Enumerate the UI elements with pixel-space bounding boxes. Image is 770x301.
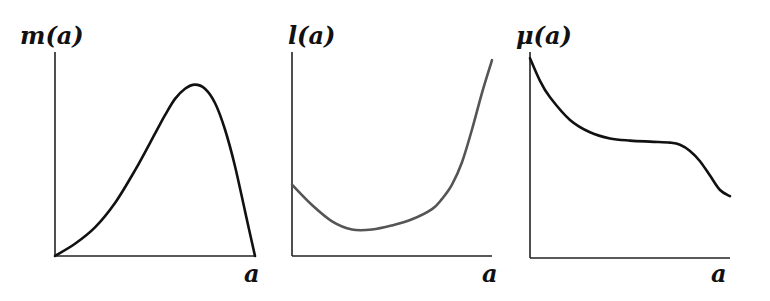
x-axis-label: a <box>244 259 260 288</box>
panel-m-of-a: m(a) a <box>20 21 260 288</box>
x-axis-label: a <box>482 259 498 288</box>
panel-l-of-a: l(a) a <box>288 21 498 288</box>
series-line-l <box>292 60 492 230</box>
y-axis-label: μ(a) <box>516 21 572 50</box>
x-axis-label: a <box>711 259 727 288</box>
series-line-m <box>55 85 255 256</box>
chart-figure: m(a) a l(a) a μ(a) a <box>0 0 770 301</box>
y-axis-label: l(a) <box>288 21 335 50</box>
y-axis-label: m(a) <box>20 21 84 50</box>
panel-mu-of-a: μ(a) a <box>516 21 730 288</box>
series-line-mu <box>530 58 730 196</box>
